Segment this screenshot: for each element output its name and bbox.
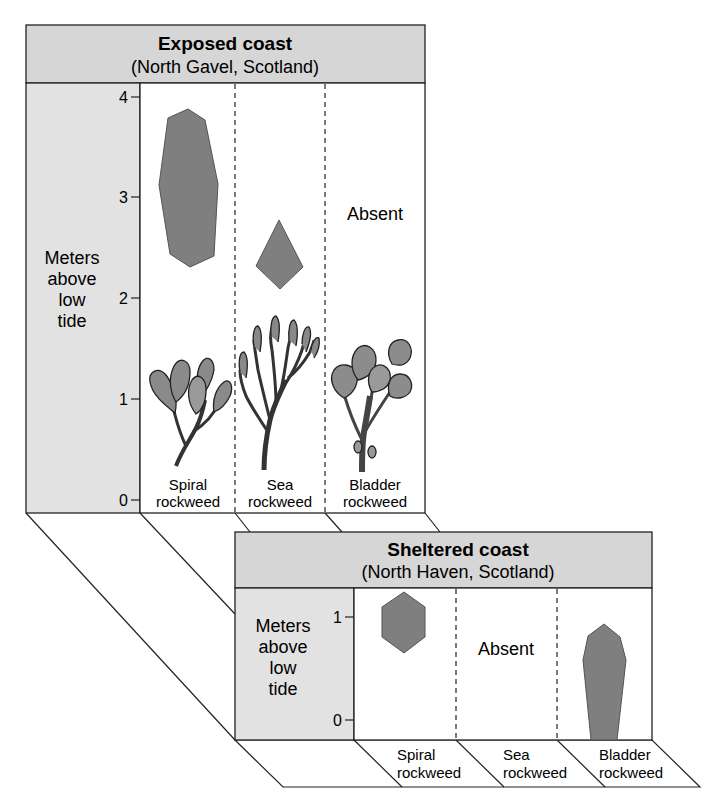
svg-text:rockweed: rockweed xyxy=(248,493,312,510)
sheltered-coast-panel: Sheltered coast (North Haven, Scotland) … xyxy=(235,532,700,787)
svg-text:Bladder: Bladder xyxy=(599,746,651,763)
svg-text:above: above xyxy=(258,637,307,657)
svg-text:low: low xyxy=(58,290,86,310)
svg-text:Meters: Meters xyxy=(255,616,310,636)
svg-text:Bladder: Bladder xyxy=(349,476,401,493)
svg-text:1: 1 xyxy=(119,391,128,408)
svg-text:low: low xyxy=(269,658,297,678)
svg-text:Meters: Meters xyxy=(44,248,99,268)
svg-text:1: 1 xyxy=(333,609,342,626)
exposed-column-labels: Spiral rockweed Sea rockweed Bladder roc… xyxy=(156,476,407,510)
zonation-diagram: Exposed coast (North Gavel, Scotland) Me… xyxy=(0,0,720,804)
sheltered-title: Sheltered coast xyxy=(387,539,529,560)
exposed-coast-panel: Exposed coast (North Gavel, Scotland) Me… xyxy=(26,25,425,513)
svg-text:Spiral: Spiral xyxy=(169,476,207,493)
bladder-absent-label: Absent xyxy=(347,204,403,224)
svg-text:rockweed: rockweed xyxy=(397,764,461,781)
svg-text:tide: tide xyxy=(57,311,86,331)
svg-text:rockweed: rockweed xyxy=(343,493,407,510)
svg-text:2: 2 xyxy=(119,290,128,307)
svg-text:above: above xyxy=(47,269,96,289)
svg-text:rockweed: rockweed xyxy=(156,493,220,510)
svg-text:3: 3 xyxy=(119,189,128,206)
svg-text:Sea: Sea xyxy=(503,746,530,763)
sheltered-subtitle: (North Haven, Scotland) xyxy=(361,562,554,582)
svg-text:Spiral: Spiral xyxy=(397,746,435,763)
svg-text:rockweed: rockweed xyxy=(599,764,663,781)
svg-text:0: 0 xyxy=(119,492,128,509)
svg-text:Sea: Sea xyxy=(267,476,294,493)
svg-text:tide: tide xyxy=(268,679,297,699)
exposed-subtitle: (North Gavel, Scotland) xyxy=(131,57,319,77)
exposed-title: Exposed coast xyxy=(158,33,293,54)
svg-text:4: 4 xyxy=(119,89,128,106)
svg-text:0: 0 xyxy=(333,712,342,729)
sheltered-sea-absent-label: Absent xyxy=(478,639,534,659)
svg-text:rockweed: rockweed xyxy=(503,764,567,781)
